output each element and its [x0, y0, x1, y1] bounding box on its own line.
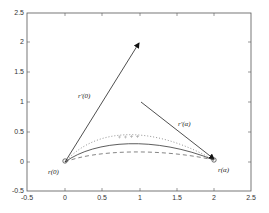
label-r-prime-alpha: r'(α): [178, 120, 191, 128]
label-r-prime-0: r'(0): [78, 92, 91, 100]
y-tick-label: 1.5: [14, 68, 24, 75]
x-tick-label: 0: [63, 194, 67, 201]
y-tick-label: 0.5: [14, 128, 24, 135]
y-tick-label: 2: [20, 38, 24, 45]
x-tick-label: 0.5: [97, 194, 107, 201]
solid-curve: [65, 144, 214, 162]
dashed-curve: [65, 152, 214, 162]
label-r-alpha: r(α): [218, 166, 230, 174]
y-tick-label: 0: [20, 158, 24, 165]
axis-ticks: [27, 13, 251, 191]
arrow-r-prime-alpha: [141, 102, 214, 159]
label-r0: r(0): [48, 168, 60, 176]
x-tick-label: 2.5: [246, 194, 256, 201]
dotted-curve: [65, 135, 214, 162]
x-tick-label: 2: [212, 194, 216, 201]
x-tick-label: -0.5: [21, 194, 33, 201]
dotted-curve-plus-markers: [118, 135, 139, 139]
y-tick-label: 1: [20, 98, 24, 105]
plot-frame: [27, 13, 251, 191]
y-tick-label: 2.5: [14, 9, 24, 16]
y-tick-label: -0.5: [12, 187, 24, 194]
x-tick-label: 1.5: [172, 194, 182, 201]
x-tick-label: 1: [138, 194, 142, 201]
y-tick-labels: -0.5 0 0.5 1 1.5 2 2.5: [12, 9, 24, 194]
chart: -0.5 0 0.5 1 1.5 2 2.5 -0.5 0 0.5 1 1.5 …: [0, 0, 269, 213]
x-tick-labels: -0.5 0 0.5 1 1.5 2 2.5: [21, 194, 256, 201]
